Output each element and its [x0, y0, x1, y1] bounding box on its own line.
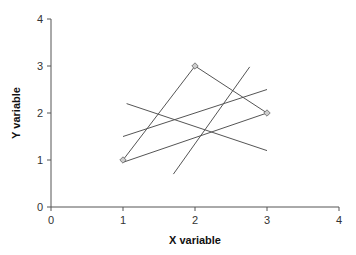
- x-axis-title: X variable: [169, 234, 221, 246]
- y-tick-label: 1: [37, 154, 43, 166]
- y-tick-label: 4: [37, 13, 43, 25]
- y-tick-label: 3: [37, 60, 43, 72]
- series-group: [120, 63, 270, 174]
- x-tick-label: 3: [264, 214, 270, 226]
- series-line-d: [173, 67, 249, 174]
- x-tick-label: 2: [192, 214, 198, 226]
- axes: 0123401234: [37, 13, 342, 226]
- x-tick-label: 4: [336, 214, 342, 226]
- x-tick-label: 0: [48, 214, 54, 226]
- chart: 0123401234 X variable Y variable: [0, 0, 356, 255]
- y-tick-label: 2: [37, 107, 43, 119]
- series-line-b: [123, 90, 267, 137]
- x-tick-label: 1: [120, 214, 126, 226]
- y-axis-title: Y variable: [10, 87, 22, 139]
- series-line-a: [123, 113, 267, 162]
- y-tick-label: 0: [37, 201, 43, 213]
- diamond-marker: [264, 110, 270, 116]
